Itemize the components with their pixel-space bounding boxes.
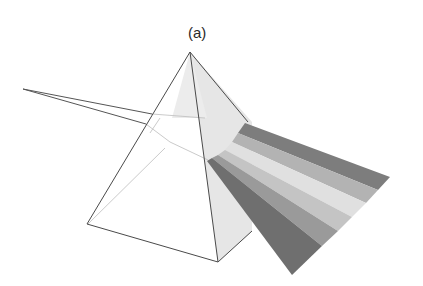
prism-diagram	[0, 0, 423, 286]
internal-rays	[88, 114, 208, 224]
incoming-beam	[23, 89, 152, 124]
